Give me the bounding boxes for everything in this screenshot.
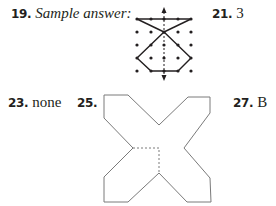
figures (0, 0, 276, 206)
x-net-figure (104, 95, 211, 202)
dot-grid-figure (135, 7, 192, 81)
fold-line (133, 148, 159, 173)
arrow-down-icon (162, 75, 167, 81)
arrow-up-icon (162, 7, 167, 13)
